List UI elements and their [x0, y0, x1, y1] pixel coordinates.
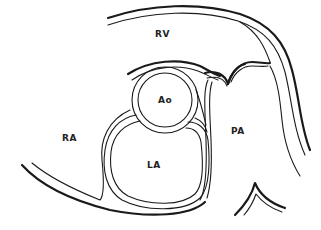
- heart-diagram: RV Ao RA LA PA: [0, 0, 321, 230]
- ra-inner-wall: [32, 110, 130, 200]
- label-rv: RV: [155, 29, 170, 39]
- pulmonic-valve-cusp-right: [228, 62, 270, 84]
- label-ao: Ao: [158, 95, 172, 105]
- label-ra: RA: [62, 133, 77, 143]
- label-pa: PA: [231, 126, 245, 136]
- label-la: LA: [147, 160, 161, 170]
